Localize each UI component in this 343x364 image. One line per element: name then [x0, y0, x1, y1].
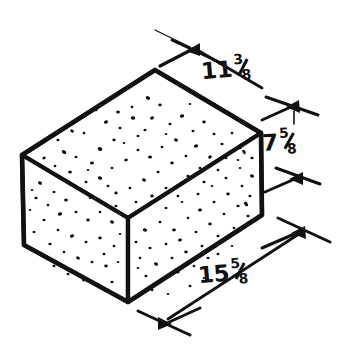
fraction-denominator: 8	[287, 141, 297, 155]
arrow-shaft-7-58-top	[262, 106, 293, 120]
dimension-label-11-38: 1138	[200, 54, 254, 84]
dimension-whole-15: 15	[197, 261, 230, 287]
dimension-fraction-5-8: 58	[229, 258, 251, 286]
dimension-whole-7: 7	[261, 131, 278, 155]
fraction-denominator: 8	[238, 271, 249, 286]
fraction-denominator: 8	[241, 67, 252, 82]
dimension-fraction-5-8: 58	[278, 128, 299, 155]
dimension-whole-11: 11	[200, 57, 233, 83]
fraction-numerator: 5	[279, 126, 289, 140]
drawing-canvas: 1138 758 1558	[0, 0, 343, 364]
dimension-label-7-58: 758	[261, 128, 299, 156]
arrowhead-11-38	[186, 43, 200, 56]
dimension-fraction-3-8: 38	[232, 54, 254, 82]
dimension-label-15-58: 1558	[197, 258, 251, 288]
brick-illustration	[0, 0, 343, 364]
arrowhead-7-58-top	[286, 100, 300, 113]
